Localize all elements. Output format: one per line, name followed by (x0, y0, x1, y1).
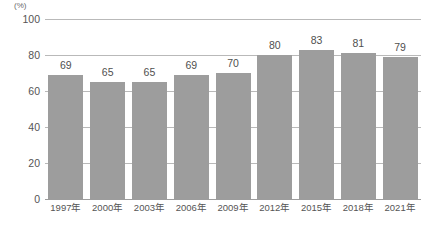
bar-slot: 70 (216, 19, 251, 199)
bar-value-label: 65 (90, 67, 125, 78)
bar (90, 82, 125, 199)
x-tick-label: 1997年 (45, 203, 87, 213)
bar-slot: 69 (174, 19, 209, 199)
bar-slot: 79 (383, 19, 418, 199)
x-tick-label: 2012年 (254, 203, 296, 213)
y-tick-label: 20 (0, 158, 40, 169)
bar-slot: 65 (132, 19, 167, 199)
y-axis-unit-label: (%) (14, 1, 26, 10)
x-tick-label: 2003年 (129, 203, 171, 213)
bar (299, 50, 334, 199)
bar-value-label: 65 (132, 67, 167, 78)
bar-value-label: 83 (299, 35, 334, 46)
x-tick-label: 2000年 (87, 203, 129, 213)
bar-chart: (%) 100806040200 696565697080838179 1997… (0, 0, 429, 227)
bar (341, 53, 376, 199)
bar (132, 82, 167, 199)
y-tick-label: 0 (0, 194, 40, 205)
bar (48, 75, 83, 199)
x-tick-label: 2015年 (296, 203, 338, 213)
bar-slot: 65 (90, 19, 125, 199)
x-tick-label: 2021年 (379, 203, 421, 213)
y-tick-label: 60 (0, 86, 40, 97)
bar (383, 57, 418, 199)
y-tick-label: 40 (0, 122, 40, 133)
bar-slot: 80 (257, 19, 292, 199)
bar-value-label: 69 (174, 60, 209, 71)
y-tick-label: 80 (0, 50, 40, 61)
bar-value-label: 80 (257, 40, 292, 51)
bar-slot: 81 (341, 19, 376, 199)
bar-value-label: 81 (341, 38, 376, 49)
x-tick-label: 2018年 (337, 203, 379, 213)
gridline-0 (45, 199, 421, 200)
x-tick-label: 2006年 (170, 203, 212, 213)
bar-slot: 83 (299, 19, 334, 199)
bar-value-label: 69 (48, 60, 83, 71)
y-tick-label: 100 (0, 14, 40, 25)
bar (257, 55, 292, 199)
bar-value-label: 70 (216, 58, 251, 69)
plot-area: 696565697080838179 (45, 19, 421, 199)
bar (174, 75, 209, 199)
x-tick-label: 2009年 (212, 203, 254, 213)
bar-value-label: 79 (383, 42, 418, 53)
bar-slot: 69 (48, 19, 83, 199)
bar (216, 73, 251, 199)
